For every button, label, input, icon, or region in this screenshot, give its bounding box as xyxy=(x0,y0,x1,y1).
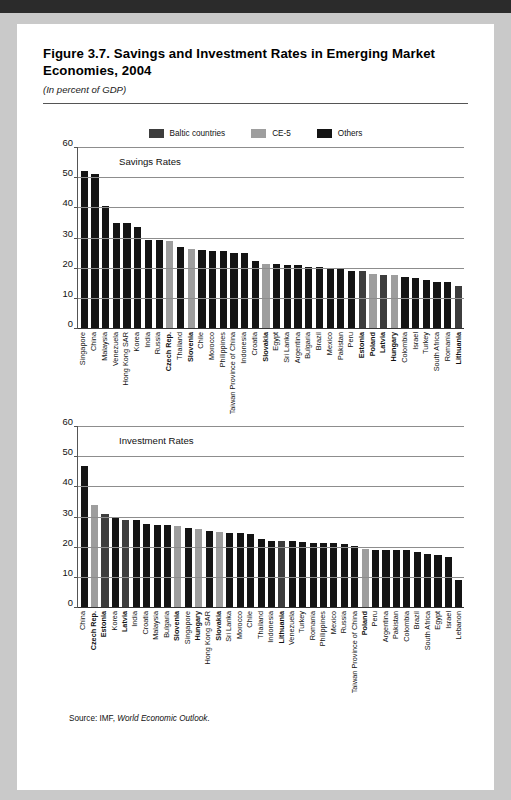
bar[interactable] xyxy=(247,534,254,607)
x-label-slot: Colombia xyxy=(402,608,412,704)
bar[interactable] xyxy=(372,550,379,607)
bar[interactable] xyxy=(252,261,259,328)
x-axis-label: Venezuela xyxy=(288,611,295,645)
bar[interactable] xyxy=(341,544,348,607)
bar[interactable] xyxy=(294,265,301,328)
x-axis-label: Taiwan Province of China xyxy=(351,611,358,693)
bar[interactable] xyxy=(445,557,452,607)
bar[interactable] xyxy=(91,505,98,607)
x-label-slot: Philippines xyxy=(217,329,228,425)
bar[interactable] xyxy=(414,552,421,607)
x-axis-label: Philippines xyxy=(320,611,327,646)
bar[interactable] xyxy=(273,264,280,328)
bar[interactable] xyxy=(403,550,410,607)
bar[interactable] xyxy=(320,543,327,607)
bar[interactable] xyxy=(455,286,462,328)
bar[interactable] xyxy=(393,550,400,607)
bar[interactable] xyxy=(241,253,248,328)
bar[interactable] xyxy=(433,282,440,329)
gridline-10 xyxy=(78,577,464,578)
bar[interactable] xyxy=(198,250,205,328)
bar[interactable] xyxy=(348,271,355,328)
x-axis-label: Slovakia xyxy=(215,611,222,641)
bar[interactable] xyxy=(380,275,387,328)
x-label-slot: Israel xyxy=(410,329,421,425)
x-label-slot: Turkey xyxy=(421,329,432,425)
bar[interactable] xyxy=(299,542,306,607)
bar[interactable] xyxy=(134,227,141,328)
bar[interactable] xyxy=(177,247,184,328)
bar[interactable] xyxy=(81,171,88,328)
bar[interactable] xyxy=(258,539,265,607)
bar[interactable] xyxy=(412,278,419,328)
bar[interactable] xyxy=(216,532,223,607)
bar[interactable] xyxy=(143,524,150,607)
x-axis-label: Estonia xyxy=(358,332,365,358)
x-axis-label: Hong Kong SAR xyxy=(205,611,212,665)
bar[interactable] xyxy=(444,282,451,328)
bar[interactable] xyxy=(424,554,431,607)
bar[interactable] xyxy=(401,277,408,328)
bar[interactable] xyxy=(174,526,181,607)
bar[interactable] xyxy=(112,518,119,607)
bar[interactable] xyxy=(382,550,389,607)
bar[interactable] xyxy=(81,466,88,607)
bar[interactable] xyxy=(220,251,227,328)
x-axis-label: Croatia xyxy=(142,611,149,635)
figure-title: Figure 3.7. Savings and Investment Rates… xyxy=(43,46,468,79)
bar[interactable] xyxy=(230,253,237,328)
bar[interactable] xyxy=(289,541,296,607)
bar[interactable] xyxy=(423,280,430,328)
x-axis-label: Morocco xyxy=(236,611,243,639)
gridline-40 xyxy=(78,486,464,487)
x-label-slot: Thailand xyxy=(174,329,185,425)
bar[interactable] xyxy=(113,223,120,328)
bar[interactable] xyxy=(101,514,108,607)
bar[interactable] xyxy=(369,274,376,328)
bar[interactable] xyxy=(145,240,152,329)
bar[interactable] xyxy=(133,520,140,607)
bar[interactable] xyxy=(434,555,441,607)
bar[interactable] xyxy=(188,249,195,328)
bar[interactable] xyxy=(310,543,317,608)
bar[interactable] xyxy=(164,525,171,607)
x-axis-label: South Africa xyxy=(433,332,440,371)
y-tick-label-40: 40 xyxy=(63,197,73,208)
x-label-slot: China xyxy=(89,329,100,425)
bar[interactable] xyxy=(123,223,130,328)
x-axis-label: Bulgaria xyxy=(305,332,312,359)
bar[interactable] xyxy=(359,271,366,328)
bar[interactable] xyxy=(278,541,285,607)
x-label-slot: Taiwan Province of China xyxy=(349,608,359,704)
x-axis-label: Sri Lanka xyxy=(283,332,290,363)
x-label-slot: Thailand xyxy=(255,608,265,704)
bar[interactable] xyxy=(206,531,213,607)
x-label-slot: Estonia xyxy=(357,329,368,425)
x-axis-label: Estonia xyxy=(100,611,107,637)
x-axis-label: Korea xyxy=(133,332,140,351)
bar[interactable] xyxy=(166,241,173,328)
bar[interactable] xyxy=(455,580,462,607)
bar[interactable] xyxy=(226,533,233,607)
bar[interactable] xyxy=(284,265,291,328)
legend-item-others: Others xyxy=(317,129,363,138)
source-prefix: Source: IMF, xyxy=(69,714,115,723)
bar[interactable] xyxy=(262,264,269,328)
y-tick-label-50: 50 xyxy=(63,167,73,178)
x-label-slot: Singapore xyxy=(182,608,192,704)
bar[interactable] xyxy=(185,528,192,607)
x-axis-label: Romania xyxy=(309,611,316,640)
bar[interactable] xyxy=(391,275,398,328)
plot-wrap-investment: Investment Rates 0102030405060 xyxy=(77,427,464,608)
bar[interactable] xyxy=(195,529,202,607)
bar[interactable] xyxy=(268,541,275,607)
bar[interactable] xyxy=(91,174,98,328)
gridline-20 xyxy=(78,268,464,269)
bar[interactable] xyxy=(154,525,161,607)
bar[interactable] xyxy=(122,520,129,607)
bar[interactable] xyxy=(330,543,337,607)
bar[interactable] xyxy=(156,240,163,328)
bar[interactable] xyxy=(237,533,244,607)
bar[interactable] xyxy=(209,251,216,328)
x-label-slot: Russia xyxy=(153,329,164,425)
